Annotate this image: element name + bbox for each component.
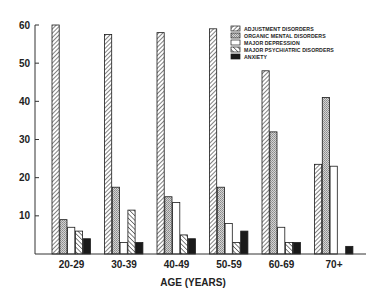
bar-adjustment-disorders-20-29 (52, 25, 59, 254)
legend-swatch (231, 47, 240, 52)
y-tick-label: 10 (19, 210, 31, 221)
bar-anxiety-50-59 (241, 231, 248, 254)
bar-group-40-49 (157, 33, 195, 254)
legend-swatch (231, 26, 240, 31)
bar-major-psychiatric-disorders-20-29 (75, 231, 82, 254)
bar-major-depression-20-29 (68, 227, 75, 254)
x-tick-label: 70+ (326, 259, 343, 270)
bar-adjustment-disorders-70 (315, 164, 322, 254)
legend-swatch (231, 33, 240, 38)
x-tick-label: 40-49 (164, 259, 190, 270)
legend-label: ORGANIC MENTAL DISORDERS (244, 33, 326, 39)
legend-item-major-depression: MAJOR DEPRESSION (231, 40, 300, 46)
bar-major-depression-50-59 (225, 223, 232, 254)
legend-label: MAJOR DEPRESSION (244, 40, 300, 46)
legend-label: ADJUSTMENT DISORDERS (244, 26, 314, 32)
bar-major-depression-30-39 (120, 243, 127, 254)
bars-layer (52, 25, 353, 254)
bar-organic-mental-disorders-70 (322, 98, 329, 254)
bar-group-30-39 (105, 35, 143, 254)
bar-chart: 102030405060 20-2930-3940-4950-5960-6970… (0, 0, 372, 305)
bar-major-psychiatric-disorders-40-49 (180, 235, 187, 254)
bar-anxiety-70 (346, 246, 353, 254)
y-tick-label: 30 (19, 134, 31, 145)
bar-adjustment-disorders-40-49 (157, 33, 164, 254)
x-tick-labels: 20-2930-3940-4950-5960-6970+ (59, 259, 343, 270)
legend-item-adjustment-disorders: ADJUSTMENT DISORDERS (231, 26, 314, 32)
x-tick-label: 60-69 (269, 259, 295, 270)
legend-label: ANXIETY (244, 54, 268, 60)
legend-item-anxiety: ANXIETY (231, 54, 268, 60)
y-ticks: 102030405060 (19, 20, 39, 222)
bar-organic-mental-disorders-50-59 (217, 187, 224, 254)
y-tick-label: 60 (19, 20, 31, 31)
legend-swatch (231, 40, 240, 45)
bar-major-depression-70 (330, 166, 337, 254)
legend-label: MAJOR PSYCHIATRIC DISORDERS (244, 47, 334, 53)
bar-group-70 (315, 98, 353, 254)
bar-group-20-29 (52, 25, 90, 254)
bar-group-50-59 (210, 29, 248, 254)
bar-anxiety-30-39 (136, 243, 143, 254)
y-tick-label: 40 (19, 96, 31, 107)
bar-major-psychiatric-disorders-30-39 (128, 210, 135, 254)
x-tick-label: 50-59 (216, 259, 242, 270)
bar-organic-mental-disorders-20-29 (60, 220, 67, 254)
bar-major-depression-60-69 (278, 227, 285, 254)
bar-organic-mental-disorders-60-69 (270, 132, 277, 254)
y-tick-label: 20 (19, 172, 31, 183)
legend-item-organic-mental-disorders: ORGANIC MENTAL DISORDERS (231, 33, 326, 39)
y-tick-label: 50 (19, 58, 31, 69)
bar-organic-mental-disorders-40-49 (165, 197, 172, 254)
bar-anxiety-20-29 (83, 239, 90, 254)
bar-anxiety-40-49 (188, 239, 195, 254)
legend-swatch (231, 54, 240, 59)
legend: ADJUSTMENT DISORDERSORGANIC MENTAL DISOR… (231, 26, 334, 60)
bar-major-psychiatric-disorders-60-69 (285, 243, 292, 254)
legend-item-major-psychiatric-disorders: MAJOR PSYCHIATRIC DISORDERS (231, 47, 334, 53)
bar-adjustment-disorders-30-39 (105, 35, 112, 254)
bar-anxiety-60-69 (293, 243, 300, 254)
bar-major-psychiatric-disorders-50-59 (233, 243, 240, 254)
x-tick-label: 20-29 (59, 259, 85, 270)
bar-group-60-69 (262, 71, 300, 254)
bar-adjustment-disorders-50-59 (210, 29, 217, 254)
bar-adjustment-disorders-60-69 (262, 71, 269, 254)
x-axis-title: AGE (YEARS) (160, 277, 226, 288)
x-tick-label: 30-39 (111, 259, 137, 270)
bar-organic-mental-disorders-30-39 (112, 187, 119, 254)
bar-major-depression-40-49 (173, 202, 180, 254)
